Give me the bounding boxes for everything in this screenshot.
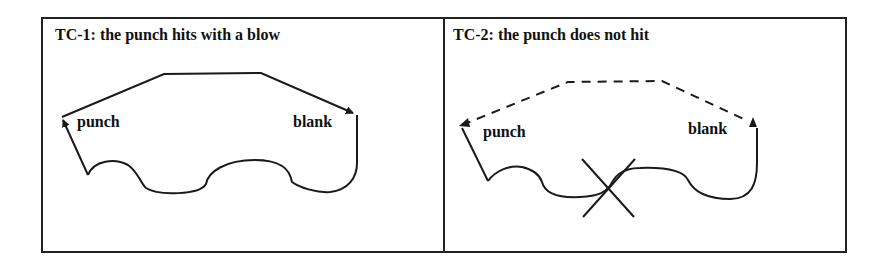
tc2-blank-label: blank (688, 121, 727, 137)
tc1-top-path (62, 73, 353, 117)
tc2-top-dashed-path (462, 81, 748, 125)
figure: TC-1: the punch hits with a blow TC-2: t… (0, 0, 891, 262)
tc2-title: TC-2: the punch does not hit (453, 27, 649, 43)
tc2-diagram (459, 81, 757, 217)
tc2-punch-arrowhead (459, 118, 470, 127)
tc1-diagram (62, 73, 357, 193)
tc2-punch-label: punch (483, 124, 526, 140)
tc2-bottom-contour (488, 128, 757, 199)
tc1-blank-label: blank (293, 114, 332, 130)
tc1-punch-label: punch (77, 114, 120, 130)
tc1-title: TC-1: the punch hits with a blow (55, 27, 280, 43)
tc2-blank-arrowhead (749, 117, 757, 127)
